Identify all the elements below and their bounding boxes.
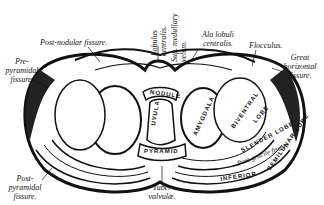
structure-pyramid: PYRAMID [144, 148, 179, 154]
cerebellum-diagram: Post-nodular fissure. Pre- pyramidal fis… [0, 0, 324, 205]
label-great-horizontal-fissure: Great horizontal fissure. [277, 53, 323, 80]
label-flocculus: Flocculus. [249, 41, 283, 50]
label-post-pyramidal-fissure: Post- pyramidal fissure. [1, 174, 49, 201]
label-post-nodular-fissure: Post-nodular fissure. [40, 38, 107, 47]
label-tuber-valvulae: Tuber valvulæ. [142, 183, 182, 201]
label-pre-pyramidal-fissure: Pre- pyramidal fissure. [1, 57, 43, 84]
label-ala-lobuli-centralis: Ala lobuli centralis. [193, 30, 243, 48]
label-sup-medullary-velum: Sup. medullary velum. [170, 14, 188, 62]
label-lobulus-centralis: Lobulus centralis. [150, 26, 168, 56]
